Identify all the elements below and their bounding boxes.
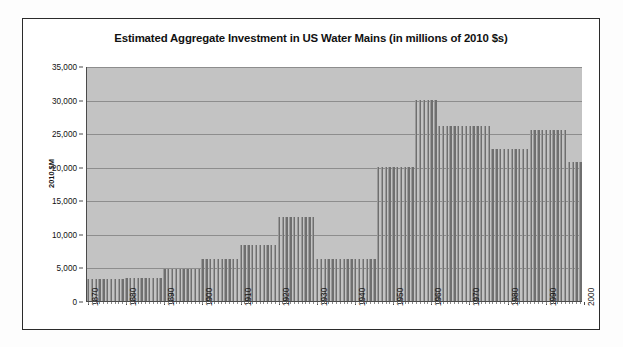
x-axis-minor-tick — [355, 302, 356, 304]
bar — [446, 126, 448, 301]
bar — [396, 167, 398, 301]
x-axis-minor-tick — [576, 302, 577, 304]
x-axis-minor-tick — [126, 302, 127, 304]
x-axis-minor-tick — [168, 302, 169, 304]
y-axis-tick-label: 25,000 — [52, 130, 77, 139]
x-axis-minor-tick — [405, 302, 406, 304]
x-axis-minor-tick — [332, 302, 333, 304]
bar — [232, 259, 234, 301]
x-axis-minor-tick — [462, 302, 463, 304]
bar — [114, 279, 116, 301]
bar — [545, 130, 547, 301]
x-axis-minor-tick — [485, 302, 486, 304]
x-axis-minor-tick — [420, 302, 421, 304]
x-axis-minor-tick — [580, 302, 581, 304]
bar — [556, 130, 558, 301]
x-axis-minor-tick — [431, 302, 432, 304]
x-axis-minor-tick — [572, 302, 573, 304]
x-axis-minor-tick — [382, 302, 383, 304]
x-axis-minor-tick — [99, 302, 100, 304]
bar — [484, 126, 486, 301]
x-axis-minor-tick — [317, 302, 318, 304]
bar — [369, 259, 371, 301]
x-axis-minor-tick — [561, 302, 562, 304]
x-axis-minor-tick — [271, 302, 272, 304]
x-axis-minor-tick — [191, 302, 192, 304]
x-axis-minor-tick — [443, 302, 444, 304]
x-axis-minor-tick — [149, 302, 150, 304]
x-axis-minor-tick — [530, 302, 531, 304]
bar — [179, 269, 181, 301]
bar — [518, 149, 520, 301]
bar — [522, 149, 524, 301]
bar — [156, 278, 158, 302]
x-axis-minor-tick — [378, 302, 379, 304]
bar — [201, 259, 203, 301]
bar — [259, 245, 261, 301]
y-axis-tick-label: 15,000 — [52, 197, 77, 206]
x-axis-minor-tick — [508, 302, 509, 304]
x-axis-minor-tick — [252, 302, 253, 304]
bar — [312, 217, 314, 301]
x-axis-tick — [584, 302, 585, 305]
x-axis-minor-tick — [412, 302, 413, 304]
x-axis-minor-tick — [458, 302, 459, 304]
bar — [575, 162, 577, 301]
bar — [404, 167, 406, 301]
x-axis-minor-tick — [427, 302, 428, 304]
x-axis-minor-tick — [374, 302, 375, 304]
bar — [224, 259, 226, 301]
x-axis-minor-tick — [118, 302, 119, 304]
bar — [270, 245, 272, 301]
x-axis-minor-tick — [233, 302, 234, 304]
x-axis-minor-tick — [557, 302, 558, 304]
x-axis-minor-tick — [386, 302, 387, 304]
bar — [217, 259, 219, 301]
x-axis-minor-tick — [313, 302, 314, 304]
x-axis-minor-tick — [340, 302, 341, 304]
bar — [350, 259, 352, 301]
x-axis-minor-tick — [496, 302, 497, 304]
x-axis-minor-tick — [237, 302, 238, 304]
x-axis-minor-tick — [542, 302, 543, 304]
bar — [488, 126, 490, 301]
x-axis-minor-tick — [225, 302, 226, 304]
bar — [449, 126, 451, 301]
bar — [87, 279, 89, 301]
x-axis-minor-tick — [481, 302, 482, 304]
x-axis-minor-tick — [214, 302, 215, 304]
x-axis-minor-tick — [263, 302, 264, 304]
bar — [507, 149, 509, 301]
x-axis-minor-tick — [454, 302, 455, 304]
y-axis-tick-label: 5,000 — [57, 264, 78, 273]
x-axis-minor-tick — [279, 302, 280, 304]
x-axis-minor-tick — [187, 302, 188, 304]
bar — [381, 167, 383, 301]
bar — [549, 130, 551, 301]
y-axis-tick — [79, 67, 83, 68]
x-axis-minor-tick — [298, 302, 299, 304]
bar — [228, 259, 230, 301]
x-axis-minor-tick — [447, 302, 448, 304]
x-axis-minor-tick — [145, 302, 146, 304]
x-axis-minor-tick — [393, 302, 394, 304]
x-axis-minor-tick — [515, 302, 516, 304]
x-axis-minor-tick — [160, 302, 161, 304]
x-axis-minor-tick — [305, 302, 306, 304]
y-axis-tick-label: 35,000 — [52, 63, 77, 72]
x-axis-minor-tick — [229, 302, 230, 304]
bar — [552, 130, 554, 301]
x-axis-minor-tick — [88, 302, 89, 304]
bar — [163, 269, 165, 301]
x-axis-minor-tick — [439, 302, 440, 304]
x-axis-minor-tick — [469, 302, 470, 304]
x-axis-tick-labels: 1870188018901900191019201930194019501960… — [86, 304, 582, 346]
bar — [427, 100, 429, 301]
x-axis-minor-tick — [336, 302, 337, 304]
x-axis-minor-tick — [435, 302, 436, 304]
x-axis-minor-tick — [344, 302, 345, 304]
x-axis-minor-tick — [176, 302, 177, 304]
bar — [159, 278, 161, 302]
y-axis-tick — [79, 302, 83, 303]
bar — [118, 279, 120, 301]
